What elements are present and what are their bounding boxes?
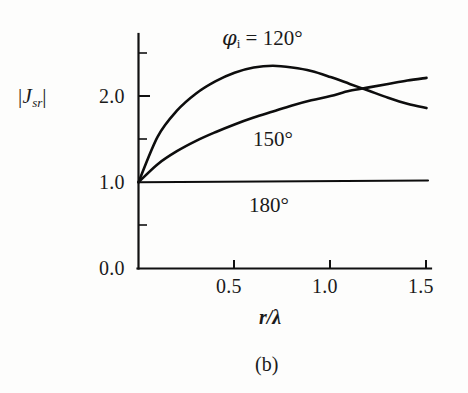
figure-caption: (b) xyxy=(255,354,278,374)
y-tick-label-2: 2.0 xyxy=(99,86,125,106)
y-axis-title: |Jsr| xyxy=(18,86,47,109)
chart-canvas xyxy=(0,0,468,393)
y-axis-title-symbol: J xyxy=(23,84,33,108)
curve-phi-120-trace xyxy=(139,66,427,182)
y-axis-title-bar-right: | xyxy=(42,84,47,108)
figure-panel: |Jsr| 2.0 1.0 0.0 0.5 1.0 1.5 r/λ φi = 1… xyxy=(0,0,468,393)
y-tick-label-0: 0.0 xyxy=(99,258,125,278)
phi-symbol: φ xyxy=(222,26,237,50)
x-tick-label-2: 1.5 xyxy=(408,276,434,296)
y-tick-label-1: 1.0 xyxy=(99,172,125,192)
series-annotation-phi-120: φi = 120° xyxy=(222,28,303,50)
x-tick-label-0: 0.5 xyxy=(216,276,242,296)
series-annotation-180: 180° xyxy=(249,195,289,216)
phi-value: = 120° xyxy=(240,26,302,50)
x-axis-title: r/λ xyxy=(259,307,281,327)
y-axis-title-subscript: sr xyxy=(32,95,42,110)
series-annotation-150: 150° xyxy=(253,129,293,150)
curve-phi-180 xyxy=(139,181,429,183)
x-tick-label-1: 1.0 xyxy=(312,276,338,296)
